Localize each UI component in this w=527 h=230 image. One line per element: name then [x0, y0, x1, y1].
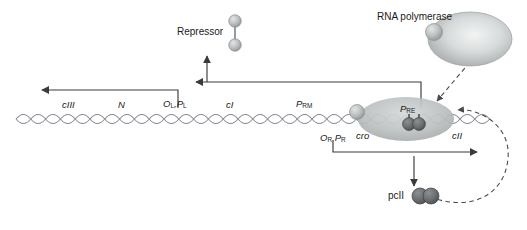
protein-label-pcII: pcII — [388, 191, 404, 201]
protein-label-rna-polymerase: RNA polymerase — [377, 12, 452, 22]
protein-label-repressor: Repressor — [177, 27, 223, 37]
cro-sphere — [350, 105, 365, 120]
gene-label-cII: cII — [452, 131, 462, 141]
pcII-dimer — [412, 188, 439, 204]
promoter-label-PRM: PRM — [296, 99, 312, 110]
diagram-vector-layer — [0, 0, 527, 230]
PR-sub: R — [341, 136, 346, 143]
polymerase-sigma-subunit — [426, 24, 443, 41]
arrow-pr-rightward — [333, 140, 477, 152]
repressor-dimer-free — [229, 15, 241, 51]
operator-label-OR-PR: OR PR — [320, 133, 346, 144]
gene-label-cro: cro — [356, 131, 369, 141]
PRM-sub: RM — [302, 102, 312, 109]
diagram-canvas: cIII N cI cro cII OL,PL PRM OR PR PRE Re… — [0, 0, 527, 230]
gene-label-cIII: cIII — [62, 100, 75, 110]
arrow-polymerase-binding — [437, 62, 470, 101]
gene-label-N: N — [118, 100, 125, 110]
promoter-label-PRE: PRE — [400, 104, 415, 115]
operator-label-OL-PL: OL,PL — [163, 99, 187, 110]
gene-label-cI: cI — [226, 100, 233, 110]
PRE-sub: RE — [406, 107, 415, 114]
PL-sub: L — [183, 102, 187, 109]
